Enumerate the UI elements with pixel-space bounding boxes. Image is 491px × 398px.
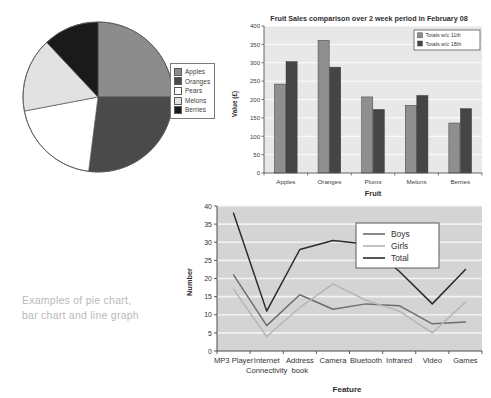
line-y-axis-label: Number [185, 268, 194, 296]
pie-legend-label: Melons [185, 96, 206, 106]
line-x-tick-label: Address [286, 356, 314, 365]
line-y-tick-label: 25 [204, 257, 212, 264]
bar-legend-label: Totals w/c 18th [426, 41, 462, 47]
bar-y-tick-label: 400 [250, 23, 261, 29]
pie-legend-label: Oranges [185, 77, 210, 87]
bar-y-tick-label: 350 [250, 42, 261, 48]
line-x-tick-label: Internet [254, 356, 281, 365]
line-legend-label: Girls [391, 241, 408, 251]
line-x-tick-label: Bluetooth [350, 356, 382, 365]
bar-oranges-series2[interactable] [330, 67, 341, 173]
bar-y-axis-ticks: 050100150200250300350400 [250, 23, 264, 176]
line-x-tick-label: Camera [319, 356, 347, 365]
bar-plums-series1[interactable] [362, 97, 373, 173]
caption-line-1: Examples of pie chart, [22, 293, 192, 308]
bar-y-tick-label: 250 [250, 78, 261, 84]
bar-apples-series1[interactable] [274, 84, 285, 173]
line-x-axis-ticks: MP3 PlayerInternetConnectivityAddressboo… [214, 351, 482, 375]
line-y-tick-label: 40 [204, 203, 212, 210]
bar-y-tick-label: 50 [253, 152, 260, 158]
line-legend-label: Total [391, 253, 409, 263]
bar-legend[interactable]: Totals w/c 11thTotals w/c 18th [414, 30, 480, 50]
pie-slice-group [23, 22, 173, 172]
line-y-tick-label: 10 [204, 311, 212, 318]
bar-y-tick-label: 0 [257, 170, 261, 176]
bar-berries-series1[interactable] [449, 123, 460, 173]
line-y-tick-label: 5 [208, 330, 212, 337]
caption-line-2: bar chart and line graph [22, 308, 192, 323]
line-y-tick-label: 15 [204, 293, 212, 300]
line-x-tick-label-2: Connectivity [246, 366, 288, 375]
line-x-tick-label: Infrared [386, 356, 412, 365]
pie-legend-swatch-oranges [174, 77, 182, 85]
pie-chart [18, 14, 180, 182]
pie-legend-item[interactable]: Berries [174, 105, 210, 115]
pie-legend-label: Berries [185, 105, 206, 115]
pie-legend-item[interactable]: Oranges [174, 77, 210, 87]
line-x-axis-label: Feature [333, 385, 362, 394]
pie-legend-swatch-melons [174, 97, 182, 105]
line-x-tick-label-2: book [292, 366, 309, 375]
line-x-tick-label: Games [453, 356, 478, 365]
figure-caption: Examples of pie chart, bar chart and lin… [22, 293, 192, 322]
pie-legend-swatch-berries [174, 106, 182, 114]
line-y-tick-label: 0 [208, 348, 212, 355]
pie-legend-swatch-apples [174, 68, 182, 76]
line-chart-svg: 0510152025303540 MP3 PlayerInternetConne… [180, 196, 491, 398]
bar-melons-series2[interactable] [417, 95, 428, 173]
bar-legend-swatch-2 [418, 41, 423, 46]
bar-x-tick-label: Oranges [318, 178, 342, 185]
line-y-tick-label: 30 [204, 239, 212, 246]
bar-y-axis-label: Value (£) [231, 91, 239, 117]
bar-chart-title: Fruit Sales comparison over 2 week perio… [270, 14, 467, 23]
line-y-tick-label: 35 [204, 221, 212, 228]
bar-y-tick-label: 150 [250, 115, 261, 121]
bar-x-tick-label: Plums [364, 178, 381, 185]
bar-legend-swatch-1 [418, 33, 423, 38]
bar-y-tick-label: 200 [250, 97, 261, 103]
bar-x-axis-ticks: ApplesOrangesPlumsMelonsBerries [264, 173, 482, 185]
line-legend-label: Boys [391, 229, 410, 239]
pie-legend-item[interactable]: Melons [174, 96, 210, 106]
bar-chart: Fruit Sales comparison over 2 week perio… [228, 8, 490, 198]
pie-legend-item[interactable]: Pears [174, 86, 210, 96]
bar-y-tick-label: 300 [250, 60, 261, 66]
charts-page: Apples Oranges Pears Melons Berries Frui… [0, 0, 491, 398]
bar-apples-series2[interactable] [286, 62, 297, 173]
line-y-axis-ticks: 0510152025303540 [204, 203, 217, 355]
bar-oranges-series1[interactable] [318, 40, 329, 173]
line-legend[interactable]: BoysGirlsTotal [356, 223, 439, 268]
bar-berries-series2[interactable] [460, 109, 471, 173]
line-chart: 0510152025303540 MP3 PlayerInternetConne… [180, 196, 491, 398]
pie-slice-apples[interactable] [98, 22, 173, 97]
line-x-tick-label: MP3 Player [214, 356, 254, 365]
bar-x-tick-label: Berries [450, 178, 470, 185]
bar-y-tick-label: 100 [250, 134, 261, 140]
pie-legend-label: Apples [185, 67, 205, 77]
pie-legend-swatch-pears [174, 87, 182, 95]
pie-chart-svg [18, 14, 180, 182]
bar-chart-svg: Fruit Sales comparison over 2 week perio… [228, 8, 490, 198]
bar-melons-series1[interactable] [405, 105, 416, 173]
bar-x-tick-label: Melons [407, 178, 427, 185]
pie-legend: Apples Oranges Pears Melons Berries [170, 63, 215, 119]
pie-slice-oranges[interactable] [89, 97, 173, 172]
bar-x-tick-label: Apples [276, 178, 295, 185]
line-y-tick-label: 20 [204, 275, 212, 282]
pie-legend-label: Pears [185, 86, 202, 96]
bar-legend-label: Totals w/c 11th [426, 32, 461, 38]
line-x-tick-label: Video [423, 356, 442, 365]
pie-legend-item[interactable]: Apples [174, 67, 210, 77]
bar-plums-series2[interactable] [373, 109, 384, 173]
